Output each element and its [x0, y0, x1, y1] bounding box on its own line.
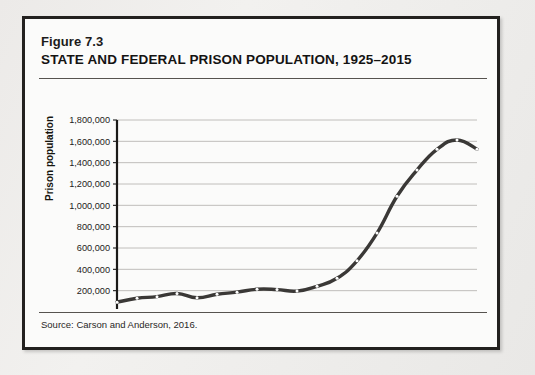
- y-axis-tick-labels: 0200,000400,000600,000800,0001,000,0001,…: [69, 115, 110, 309]
- title-divider: [39, 78, 487, 79]
- svg-text:1,000,000: 1,000,000: [69, 201, 110, 211]
- svg-text:200,000: 200,000: [77, 286, 110, 296]
- bottom-divider: [39, 312, 487, 313]
- svg-text:1,800,000: 1,800,000: [69, 115, 110, 125]
- svg-text:600,000: 600,000: [77, 243, 110, 253]
- svg-text:400,000: 400,000: [77, 265, 110, 275]
- svg-text:1,400,000: 1,400,000: [69, 158, 110, 168]
- prison-population-line: [117, 140, 477, 302]
- gridlines: [117, 120, 477, 291]
- figure-title: STATE AND FEDERAL PRISON POPULATION, 192…: [41, 52, 412, 67]
- svg-text:1,200,000: 1,200,000: [69, 179, 110, 189]
- figure-content: Figure 7.3 STATE AND FEDERAL PRISON POPU…: [25, 19, 497, 347]
- line-chart: 0200,000400,000600,000800,0001,000,0001,…: [25, 81, 497, 309]
- source-note: Source: Carson and Anderson, 2016.: [41, 319, 197, 330]
- figure-box: Figure 7.3 STATE AND FEDERAL PRISON POPU…: [22, 16, 500, 350]
- page-background: Figure 7.3 STATE AND FEDERAL PRISON POPU…: [0, 0, 535, 375]
- svg-text:1,600,000: 1,600,000: [69, 137, 110, 147]
- chart-plot-area: Prison population 0200,000400,000600,000…: [25, 81, 497, 309]
- figure-number: Figure 7.3: [41, 34, 103, 49]
- svg-text:0: 0: [105, 307, 110, 309]
- svg-text:800,000: 800,000: [77, 222, 110, 232]
